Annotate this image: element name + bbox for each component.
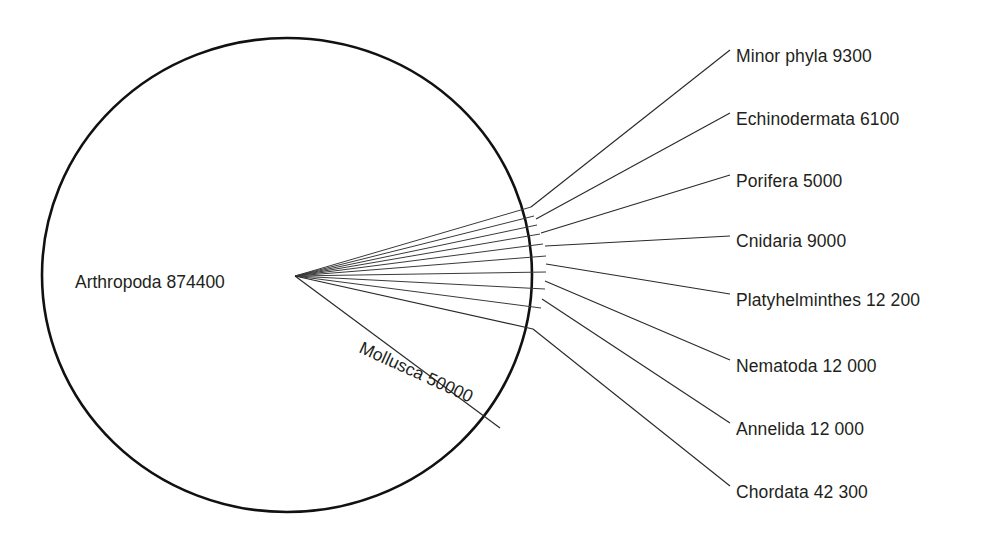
callout-label-platyhelminthes: Platyhelminthes 12 200 — [736, 290, 920, 310]
slice-radius-5 — [295, 244, 543, 276]
callout-label-annelida: Annelida 12 000 — [736, 419, 864, 439]
callout-label-chordata: Chordata 42 300 — [736, 482, 868, 502]
leader-line-echinodermata — [536, 113, 730, 219]
leader-line-chordata — [533, 329, 730, 486]
callout-label-porifera: Porifera 5000 — [736, 171, 843, 191]
callout-label-cnidaria: Cnidaria 9000 — [736, 231, 846, 251]
leader-line-cnidaria — [545, 236, 730, 246]
leader-line-platyhelminthes — [546, 264, 730, 294]
callout-label-minor-phyla: Minor phyla 9300 — [736, 46, 872, 66]
leader-line-annelida — [542, 299, 730, 423]
leader-line-porifera — [541, 175, 730, 233]
leader-lines-group — [531, 50, 730, 486]
slice-radii-group — [295, 207, 546, 428]
slice-radius-3 — [295, 225, 537, 276]
slice-radius-2 — [295, 216, 534, 276]
slice-label-mollusca: Mollusca 50000 — [356, 337, 476, 406]
leader-line-minor-phyla — [531, 50, 730, 207]
slice-label-arthropoda: Arthropoda 874400 — [75, 272, 225, 292]
pie-chart-figure: Arthropoda 874400 Mollusca 50000 Minor p… — [0, 0, 984, 536]
leader-line-nematoda — [545, 281, 730, 360]
slice-radius-8 — [295, 276, 545, 289]
pie-chart-canvas: Arthropoda 874400 Mollusca 50000 Minor p… — [0, 0, 984, 536]
callout-label-echinodermata: Echinodermata 6100 — [736, 109, 899, 129]
callout-label-nematoda: Nematoda 12 000 — [736, 356, 877, 376]
